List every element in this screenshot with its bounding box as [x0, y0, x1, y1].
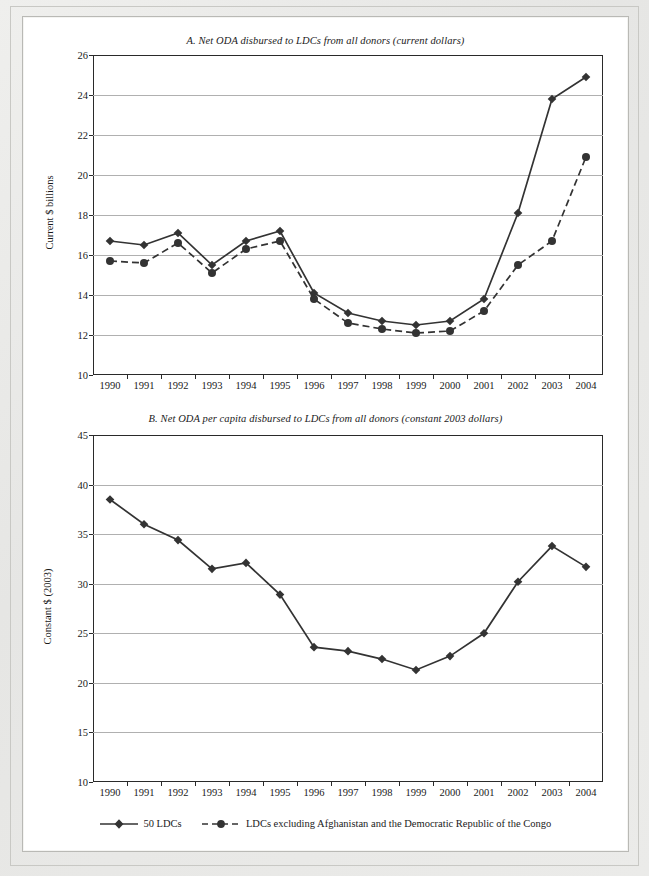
legend-label-50-ldcs: 50 LDCs: [143, 818, 181, 829]
chart-a-x-tick-label: 1998: [372, 380, 393, 391]
chart-a-data-point: [548, 95, 557, 104]
chart-b-x-tick-label: 1999: [406, 787, 427, 798]
chart-a-x-tick-mark: [365, 375, 366, 379]
chart-b-x-tick-label: 2004: [576, 787, 597, 798]
chart-b-y-tick-label: 10: [78, 777, 89, 788]
chart-a-x-tick-label: 1991: [134, 380, 155, 391]
chart-a-y-axis-label: Current $ billions: [44, 53, 55, 373]
chart-b-series-layer: [93, 435, 603, 782]
chart-b-x-tick-mark: [569, 782, 570, 786]
chart-b-y-tick-label: 15: [78, 727, 89, 738]
chart-a-x-tick-label: 2001: [474, 380, 495, 391]
legend-item-50-ldcs: 50 LDCs: [100, 817, 182, 830]
chart-b-x-tick-label: 2003: [542, 787, 563, 798]
chart-a-y-tick-label: 18: [78, 210, 89, 221]
chart-b-x-tick-mark: [433, 782, 434, 786]
chart-a-y-tick-label: 20: [78, 170, 89, 181]
chart-a-y-tick-label: 14: [78, 290, 89, 301]
chart-a-x-tick-mark: [161, 375, 162, 379]
chart-b-y-tick-label: 40: [78, 479, 89, 490]
figure-page: A. Net ODA disbursed to LDCs from all do…: [0, 0, 649, 876]
chart-a-x-tick-label: 1992: [168, 380, 189, 391]
chart-a-data-point: [582, 153, 590, 161]
chart-a-x-tick-label: 1995: [270, 380, 291, 391]
chart-b-y-tick-label: 30: [78, 578, 89, 589]
chart-b-x-tick-mark: [229, 782, 230, 786]
chart-a-x-tick-label: 2003: [542, 380, 563, 391]
chart-b-x-tick-label: 1992: [168, 787, 189, 798]
chart-a-data-point: [174, 239, 182, 247]
chart-a-x-tick-label: 1990: [100, 380, 121, 391]
chart-b-data-point: [344, 647, 353, 656]
chart-b-y-tick-label: 25: [78, 628, 89, 639]
chart-a-data-point: [412, 329, 420, 337]
legend-solid-diamond-icon: [100, 818, 138, 830]
chart-a-y-tick-mark: [89, 375, 93, 376]
chart-b-x-tick-label: 1995: [270, 787, 291, 798]
chart-a-x-tick-label: 1994: [236, 380, 257, 391]
chart-b-data-point: [582, 563, 591, 572]
chart-a-x-tick-mark: [297, 375, 298, 379]
chart-b-x-tick-label: 1993: [202, 787, 223, 798]
chart-b-data-point: [310, 643, 319, 652]
chart-b-x-tick-label: 1990: [100, 787, 121, 798]
chart-a-x-tick-label: 1996: [304, 380, 325, 391]
chart-a-data-point: [242, 245, 250, 253]
chart-a-data-point: [208, 269, 216, 277]
chart-a-data-point: [378, 317, 387, 326]
chart-a-series-line-0: [110, 77, 586, 325]
chart-b-x-tick-mark: [161, 782, 162, 786]
chart-b-y-tick-mark: [89, 782, 93, 783]
chart-a-data-point: [412, 321, 421, 330]
chart-a-data-point: [446, 317, 455, 326]
chart-a-data-point: [548, 237, 556, 245]
chart-a-data-point: [276, 227, 285, 236]
chart-a-data-point: [140, 241, 149, 250]
chart-b-y-tick-label: 20: [78, 677, 89, 688]
chart-b-x-tick-mark: [467, 782, 468, 786]
chart-a-y-tick-label: 24: [78, 90, 89, 101]
chart-b-x-tick-mark: [501, 782, 502, 786]
chart-a-data-point: [106, 257, 114, 265]
chart-a-x-tick-label: 1999: [406, 380, 427, 391]
chart-a-data-point: [310, 295, 318, 303]
chart-a-x-tick-mark: [399, 375, 400, 379]
chart-a-x-tick-label: 2000: [440, 380, 461, 391]
chart-a-x-tick-mark: [569, 375, 570, 379]
chart-a-x-tick-mark: [501, 375, 502, 379]
chart-a-x-tick-mark: [331, 375, 332, 379]
chart-b-x-tick-label: 1994: [236, 787, 257, 798]
chart-b-x-tick-label: 1998: [372, 787, 393, 798]
chart-a-x-tick-label: 1993: [202, 380, 223, 391]
chart-a-data-point: [446, 327, 454, 335]
chart-b-x-tick-mark: [263, 782, 264, 786]
chart-a-data-point: [344, 309, 353, 318]
chart-b-x-tick-label: 2002: [508, 787, 529, 798]
chart-a-x-tick-label: 2004: [576, 380, 597, 391]
chart-b-x-tick-mark: [399, 782, 400, 786]
chart-a-y-tick-label: 10: [78, 370, 89, 381]
chart-b-x-tick-mark: [195, 782, 196, 786]
chart-a-data-point: [140, 259, 148, 267]
chart-a-data-point: [344, 319, 352, 327]
chart-a-data-point: [582, 73, 591, 82]
chart-a-x-tick-mark: [127, 375, 128, 379]
chart-a-data-point: [276, 237, 284, 245]
legend-label-excluding: LDCs excluding Afghanistan and the Democ…: [246, 818, 551, 829]
chart-a-x-tick-mark: [535, 375, 536, 379]
chart-b-y-tick-label: 45: [78, 430, 89, 441]
chart-b-x-tick-mark: [535, 782, 536, 786]
chart-b-x-tick-label: 2001: [474, 787, 495, 798]
chart-b-y-axis-label: Constant $ (2003): [42, 433, 53, 780]
figure-frame: A. Net ODA disbursed to LDCs from all do…: [22, 16, 629, 852]
chart-b-series-line-0: [110, 499, 586, 670]
chart-a-plot-area: Current $ billions 101214161820222426199…: [93, 55, 603, 375]
chart-b-data-point: [378, 655, 387, 664]
legend-item-excluding: LDCs excluding Afghanistan and the Democ…: [202, 817, 551, 830]
chart-a-data-point: [106, 237, 115, 246]
chart-b-x-tick-mark: [331, 782, 332, 786]
chart-a-y-tick-label: 26: [78, 50, 89, 61]
chart-b-x-tick-label: 1991: [134, 787, 155, 798]
chart-a-series-layer: [93, 55, 603, 375]
chart-a-data-point: [514, 261, 522, 269]
